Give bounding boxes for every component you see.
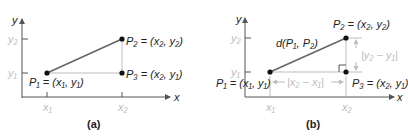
point-p2 xyxy=(119,36,124,41)
x-axis-label: x xyxy=(396,91,403,103)
point-p3 xyxy=(119,70,124,75)
segment-p1-p2 xyxy=(47,39,122,73)
tick-label-x2: x₂ xyxy=(117,101,129,113)
tick-label-x1: x₁ xyxy=(42,101,53,113)
panel-a: y x y₂ y₁ x₁ x₂ P₁ = (x₁, y₁) P₂ = (x₂, … xyxy=(7,14,183,130)
distance-formula-diagram: y x y₂ y₁ x₁ x₂ P₁ = (x₁, y₁) P₂ = (x₂, … xyxy=(0,0,408,139)
caption-a: (a) xyxy=(87,118,101,130)
y-axis-label: y xyxy=(235,13,243,25)
point-p3 xyxy=(343,69,348,74)
point-p1-label: P₁ = (x₁, y₁) xyxy=(216,77,271,89)
vertical-measure-label: |y₂ − y₁| xyxy=(361,49,398,61)
distance-label: d(P₁, P₂) xyxy=(276,37,318,49)
tick-label-y2: y₂ xyxy=(230,32,242,44)
point-p2-label: P₂ = (x₂, y₂) xyxy=(333,18,390,30)
point-p3-label: P₃ = (x₂, y₁) xyxy=(126,68,183,80)
tick-label-x1: x₁ xyxy=(265,101,276,113)
tick-label-x2: x₂ xyxy=(341,101,353,113)
tick-label-y1: y₁ xyxy=(7,67,18,79)
point-p1 xyxy=(267,69,272,74)
x-axis-label: x xyxy=(173,91,180,103)
point-p1-label: P₁ = (x₁, y₁) xyxy=(29,76,84,88)
y-axis-label: y xyxy=(11,14,19,26)
point-p2 xyxy=(343,35,348,40)
tick-label-y2: y₂ xyxy=(7,33,19,45)
point-p1 xyxy=(44,70,49,75)
caption-b: (b) xyxy=(306,118,320,130)
point-p2-label: P₂ = (x₂, y₂) xyxy=(126,35,183,47)
point-p3-label: P₃ = (x₂, y₁) xyxy=(352,77,408,89)
horizontal-measure-label: |x₂ − x₁| xyxy=(287,76,324,88)
panel-b: y x y₂ y₁ x₁ x₂ d(P₁, P₂) |x₂ − x₁| |y₂ … xyxy=(216,13,408,130)
